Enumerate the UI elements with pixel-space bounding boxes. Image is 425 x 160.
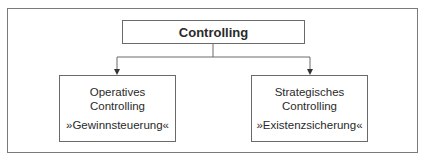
node-subtitle: »Gewinnsteuerung« xyxy=(66,118,169,132)
node-title-line2: Controlling xyxy=(282,99,337,113)
node-strategisches-controlling: Strategisches Controlling »Existenzsiche… xyxy=(251,75,368,142)
node-title-line2: Controlling xyxy=(90,99,145,113)
root-label: Controlling xyxy=(179,25,248,40)
node-title-line1: Strategisches xyxy=(275,85,345,99)
node-subtitle: »Existenzsicherung« xyxy=(256,118,362,132)
root-node: Controlling xyxy=(122,20,305,44)
node-operatives-controlling: Operatives Controlling »Gewinnsteuerung« xyxy=(59,75,176,142)
node-title-line1: Operatives xyxy=(90,85,146,99)
